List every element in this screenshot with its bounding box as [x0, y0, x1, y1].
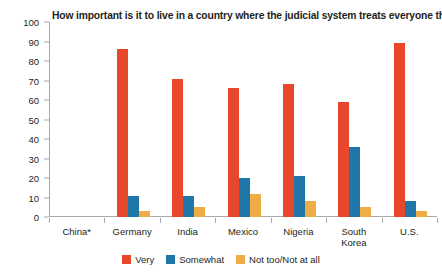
y-axis-tick-label: 90 — [28, 36, 39, 47]
y-axis: 0102030405060708090100 — [0, 22, 49, 217]
bar — [294, 176, 305, 217]
bar — [239, 178, 250, 217]
y-axis-tick-label: 50 — [28, 114, 39, 125]
x-axis-tick-label: Germany — [113, 226, 152, 237]
bar — [250, 194, 261, 217]
bar — [183, 196, 194, 217]
y-axis-tick-label: 70 — [28, 75, 39, 86]
bar — [416, 211, 427, 217]
bar — [117, 49, 128, 217]
y-axis-tick-label: 100 — [23, 17, 39, 28]
bar-group — [394, 22, 427, 217]
bar — [228, 88, 239, 217]
legend-swatch-icon — [122, 255, 131, 264]
bar — [405, 201, 416, 217]
x-axis-tick-label: U.S. — [400, 226, 418, 237]
bar — [394, 43, 405, 217]
x-axis-tick-label: Nigeria — [283, 226, 313, 237]
legend-item-label: Very — [135, 254, 154, 265]
bars-layer — [50, 22, 438, 217]
x-axis-tick-label: India — [177, 226, 198, 237]
y-axis-tick-label: 10 — [28, 192, 39, 203]
y-axis-tick-label: 20 — [28, 173, 39, 184]
x-axis-tick-label: China* — [62, 226, 91, 237]
bar — [194, 207, 205, 217]
bar — [338, 102, 349, 217]
x-axis-tick-mark — [326, 218, 327, 223]
y-axis-tick-label: 40 — [28, 134, 39, 145]
legend-item-label: Not too/Not at all — [249, 254, 320, 265]
x-axis-tick-mark — [271, 218, 272, 223]
bar-group — [61, 22, 94, 217]
bar-group — [228, 22, 261, 217]
y-axis-tick-label: 30 — [28, 153, 39, 164]
legend-item[interactable]: Somewhat — [166, 254, 224, 265]
y-axis-tick-label: 60 — [28, 95, 39, 106]
chart-title: How important is it to live in a country… — [52, 10, 440, 22]
legend-item[interactable]: Very — [122, 254, 154, 265]
bar — [139, 211, 150, 217]
x-axis-tick-mark — [160, 218, 161, 223]
y-axis-tick-label: 0 — [34, 212, 39, 223]
legend-swatch-icon — [166, 255, 175, 264]
bar-group — [172, 22, 205, 217]
x-axis-tick-mark — [215, 218, 216, 223]
bar-group — [283, 22, 316, 217]
bar-chart-figure: How important is it to live in a country… — [0, 0, 442, 275]
x-axis: China*GermanyIndiaMexicoNigeriaSouth Kor… — [49, 218, 437, 252]
bar-group — [117, 22, 150, 217]
y-axis-tick-label: 80 — [28, 56, 39, 67]
plot-area — [49, 22, 437, 217]
legend-swatch-icon — [236, 255, 245, 264]
legend-item-label: Somewhat — [179, 254, 224, 265]
legend-item[interactable]: Not too/Not at all — [236, 254, 320, 265]
x-axis-tick-mark — [104, 218, 105, 223]
bar — [172, 79, 183, 217]
bar — [360, 207, 371, 217]
bar-group — [338, 22, 371, 217]
bar — [349, 147, 360, 217]
bar — [283, 84, 294, 217]
x-axis-tick-mark — [382, 218, 383, 223]
chart-legend: VerySomewhatNot too/Not at all — [0, 254, 442, 265]
x-axis-tick-label: Mexico — [228, 226, 258, 237]
bar — [305, 201, 316, 217]
x-axis-tick-label: South Korea — [341, 226, 366, 248]
x-axis-tick-mark — [437, 218, 438, 223]
bar — [128, 196, 139, 217]
x-axis-tick-mark — [49, 218, 50, 223]
